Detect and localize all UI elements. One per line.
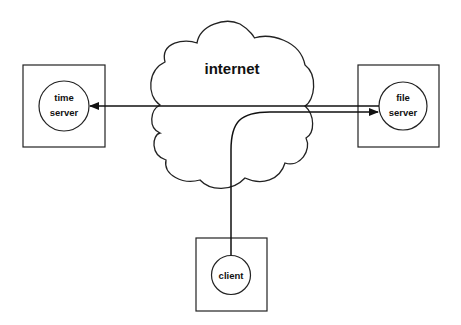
internet-label: internet (204, 60, 259, 77)
time-server-label-line1: time (54, 92, 74, 103)
client-label: client (219, 270, 245, 281)
time-server-circle (39, 81, 89, 131)
file-server-label-line2: server (389, 107, 418, 118)
time-server-label-line2: server (50, 107, 79, 118)
file-server-label-line1: file (396, 92, 410, 103)
network-diagram: internet time server file server client (0, 0, 461, 325)
internet-cloud: internet (151, 21, 314, 188)
file-server-circle (379, 82, 427, 130)
